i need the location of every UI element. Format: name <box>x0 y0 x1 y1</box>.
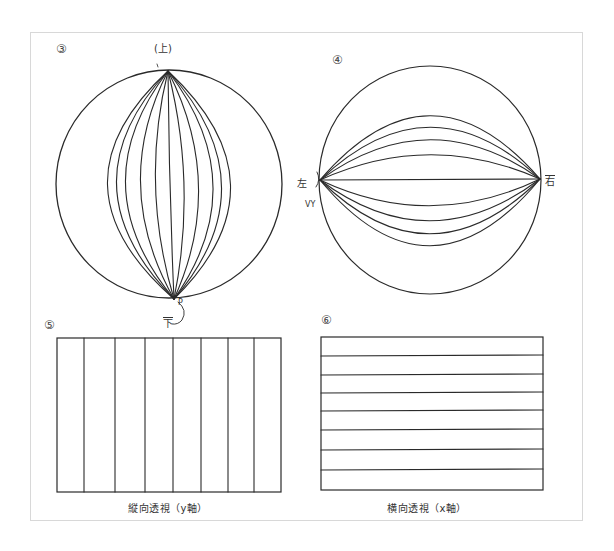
panel-6-grid <box>321 337 543 490</box>
diagram-drawing <box>0 0 614 551</box>
panel-3-sphere <box>56 64 282 324</box>
panel-4-sphere <box>316 66 541 294</box>
panel-5-grid <box>57 338 281 492</box>
